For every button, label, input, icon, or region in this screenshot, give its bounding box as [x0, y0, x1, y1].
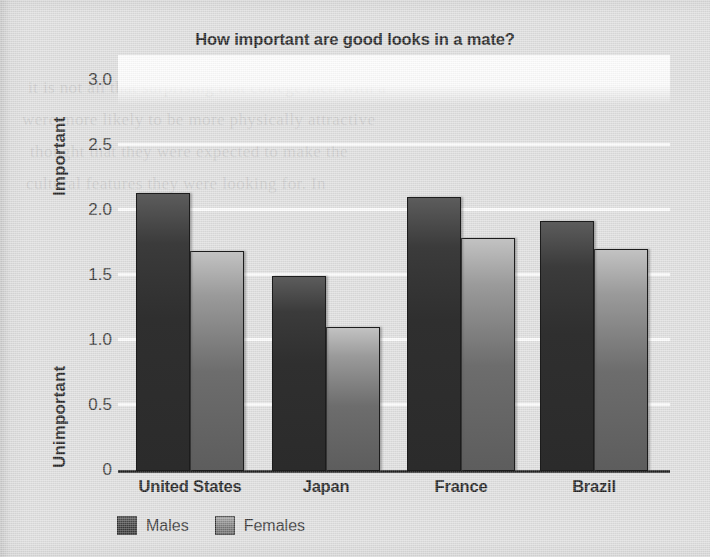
bar-japan-females — [326, 327, 380, 471]
bar-united-states-males — [136, 193, 190, 471]
bar-france-males — [407, 197, 461, 471]
y-axis-tick-label: 3.0 — [70, 70, 112, 90]
legend-item-females[interactable]: Females — [215, 516, 305, 535]
gridline — [118, 143, 670, 146]
legend: MalesFemales — [117, 516, 305, 535]
bar-brazil-males — [540, 221, 594, 471]
legend-swatch-males — [117, 516, 137, 535]
y-axis-tick-label: 1.0 — [70, 330, 112, 350]
bar-united-states-females — [190, 251, 244, 471]
legend-item-males[interactable]: Males — [117, 516, 189, 535]
bar-japan-males — [272, 276, 326, 471]
gridline — [118, 208, 670, 211]
legend-label: Males — [146, 517, 189, 535]
bar-france-females — [461, 238, 515, 471]
y-axis-tick-label: 1.5 — [70, 265, 112, 285]
plot-area — [118, 55, 670, 471]
x-axis-label-brazil: Brazil — [510, 477, 678, 496]
y-axis-tick-label: 2.0 — [70, 200, 112, 220]
y-axis-tick-label: 0.5 — [70, 395, 112, 415]
gridline — [118, 78, 670, 81]
y-axis-tick-label: 2.5 — [70, 135, 112, 155]
chart-title: How important are good looks in a mate? — [0, 30, 710, 49]
y-axis-title-unimportant: Unimportant — [50, 366, 70, 468]
legend-swatch-females — [215, 516, 235, 535]
scanned-page: it is not all that surprising that colle… — [0, 0, 710, 557]
legend-label: Females — [244, 517, 305, 535]
bar-brazil-females — [594, 249, 648, 471]
y-axis-title-important: Important — [50, 117, 70, 196]
